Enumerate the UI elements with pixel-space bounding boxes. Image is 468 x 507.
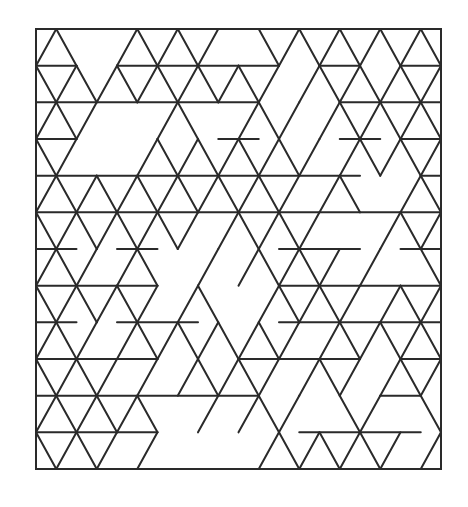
- triangle-tiling-figure: [0, 0, 468, 507]
